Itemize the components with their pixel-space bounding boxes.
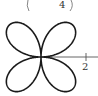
left-paren-arc — [27, 0, 29, 11]
top-partial-label: 4 — [59, 0, 65, 10]
right-paren-arc — [70, 0, 72, 11]
axis-tick-label: 2 — [82, 62, 88, 72]
rose-curve-diagram — [0, 0, 98, 96]
